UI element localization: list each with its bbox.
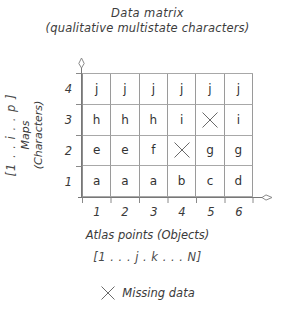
cell-value: h xyxy=(150,113,158,127)
matrix-cell[interactable]: a xyxy=(140,166,168,197)
matrix-cell[interactable]: j xyxy=(140,74,168,105)
x-axis-label: Atlas points (Objects) xyxy=(0,228,295,242)
legend-label: Missing data xyxy=(122,286,194,300)
matrix-cell[interactable]: c xyxy=(196,166,224,197)
y-axis-tick-label: 4 xyxy=(58,82,72,96)
matrix-cell-missing[interactable] xyxy=(196,105,224,136)
matrix-cell[interactable]: f xyxy=(140,136,168,167)
matrix-cell[interactable]: j xyxy=(196,74,224,105)
matrix-cell[interactable]: e xyxy=(83,136,111,167)
cell-value: i xyxy=(180,113,183,127)
cell-value: g xyxy=(235,143,243,157)
matrix-cell[interactable]: a xyxy=(83,166,111,197)
cell-value: j xyxy=(180,82,183,96)
cell-value: e xyxy=(121,143,128,157)
y-axis-tick-label: 1 xyxy=(58,175,72,189)
x-axis-tick-label: 4 xyxy=(173,205,191,219)
matrix-cell[interactable]: g xyxy=(196,136,224,167)
cell-value: h xyxy=(93,113,101,127)
cell-value: f xyxy=(151,143,155,157)
cell-value: b xyxy=(178,174,186,188)
y-axis-label-line2: (Characters) xyxy=(32,101,45,170)
cell-value: a xyxy=(121,174,128,188)
matrix-cell[interactable]: j xyxy=(225,74,253,105)
y-axis-tick-label: 2 xyxy=(58,144,72,158)
cell-value: a xyxy=(150,174,157,188)
cell-value: d xyxy=(235,174,243,188)
chart-title-block: Data matrix (qualitative multistate char… xyxy=(0,6,295,36)
legend: Missing data xyxy=(0,285,295,301)
matrix-cell[interactable]: j xyxy=(168,74,196,105)
matrix-cell[interactable]: i xyxy=(168,105,196,136)
matrix-cell[interactable]: d xyxy=(225,166,253,197)
cell-value: j xyxy=(152,82,155,96)
x-axis-tick-label: 5 xyxy=(202,205,220,219)
x-axis-tick-label: 2 xyxy=(116,205,134,219)
matrix-cell[interactable]: h xyxy=(111,105,139,136)
cell-value: j xyxy=(208,82,211,96)
page-subtitle: (qualitative multistate characters) xyxy=(0,21,295,36)
y-axis-tick-label: 3 xyxy=(58,113,72,127)
y-index-notation-container: [1 . . i . . p ] xyxy=(0,60,24,210)
matrix-cell[interactable]: j xyxy=(83,74,111,105)
x-mark-icon xyxy=(172,141,191,160)
matrix-cell[interactable]: b xyxy=(168,166,196,197)
matrix-cell[interactable]: i xyxy=(225,105,253,136)
cell-value: e xyxy=(93,143,100,157)
data-matrix-plot: j j j j j j h h h i i e e f g g a a a b xyxy=(82,73,253,197)
cell-value: g xyxy=(206,143,214,157)
matrix-cell[interactable]: e xyxy=(111,136,139,167)
page-title: Data matrix xyxy=(0,6,295,21)
y-axis-label-container: Maps (Characters) xyxy=(22,73,42,197)
cell-value: j xyxy=(237,82,240,96)
cell-value: j xyxy=(95,82,98,96)
matrix-cell-missing[interactable] xyxy=(168,136,196,167)
matrix-cell[interactable]: j xyxy=(111,74,139,105)
x-mark-icon xyxy=(200,110,219,129)
cell-value: c xyxy=(207,174,214,188)
cell-value: j xyxy=(123,82,126,96)
x-axis-tick-label: 6 xyxy=(230,205,248,219)
cell-value: h xyxy=(121,113,129,127)
x-axis-tick-label: 1 xyxy=(88,205,106,219)
cell-value: i xyxy=(237,113,240,127)
matrix-cell[interactable]: h xyxy=(83,105,111,136)
matrix-cell[interactable]: g xyxy=(225,136,253,167)
cell-value: a xyxy=(93,174,100,188)
matrix-cell[interactable]: a xyxy=(111,166,139,197)
matrix-cell[interactable]: h xyxy=(140,105,168,136)
x-axis-tick-label: 3 xyxy=(145,205,163,219)
data-matrix-grid: j j j j j j h h h i i e e f g g a a a b xyxy=(82,73,253,197)
x-mark-icon xyxy=(100,285,116,301)
y-index-notation: [1 . . i . . p ] xyxy=(4,94,18,177)
x-index-notation: [1 . . . j . k . . . N] xyxy=(0,250,295,264)
